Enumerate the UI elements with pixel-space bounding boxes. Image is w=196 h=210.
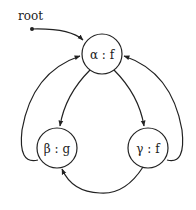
node-gamma: γ : f <box>128 128 168 168</box>
node-beta: β : g <box>37 128 77 168</box>
svg-text:β : g: β : g <box>44 142 71 156</box>
edge-alpha-beta <box>60 70 90 126</box>
root-edge <box>32 29 83 40</box>
edge-alpha-gamma <box>114 70 144 126</box>
edge-gamma-beta <box>62 167 143 193</box>
node-alpha: α : f <box>82 34 122 74</box>
root-label: root <box>18 9 43 23</box>
svg-text:γ : f: γ : f <box>136 142 161 156</box>
svg-text:α : f: α : f <box>90 48 116 62</box>
diagram: root α : f β : g γ : f <box>0 0 196 210</box>
